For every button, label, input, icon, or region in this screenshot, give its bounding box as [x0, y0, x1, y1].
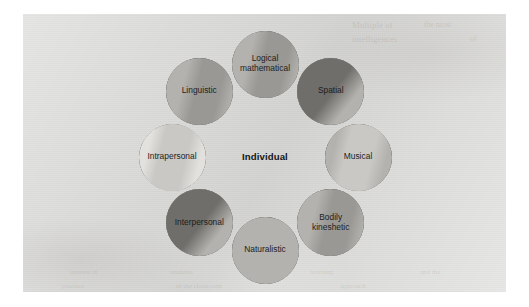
center-label: Individual — [210, 151, 320, 162]
intelligence-circle-label: Musical — [342, 152, 375, 162]
multiple-intelligences-venn-diagram: LogicalmathematicalSpatialMusicalBodilyk… — [0, 0, 529, 307]
intelligence-circle-label: Naturalistic — [242, 245, 288, 255]
intelligence-circle-label: Logicalmathematical — [238, 54, 292, 74]
intelligence-circle-linguistic[interactable]: Linguistic — [166, 58, 233, 125]
intelligence-circle-naturalistic[interactable]: Naturalistic — [232, 217, 299, 284]
intelligence-circle-label: Spatial — [316, 86, 346, 96]
intelligence-circle-logical-mathematical[interactable]: Logicalmathematical — [232, 31, 299, 98]
intelligence-circle-label: Interpersonal — [173, 218, 226, 228]
intelligence-circle-musical[interactable]: Musical — [325, 124, 392, 191]
intelligence-circle-spatial[interactable]: Spatial — [297, 58, 364, 125]
intelligence-circle-label: Linguistic — [180, 86, 219, 96]
intelligence-circle-label: Bodilykineshetic — [310, 213, 351, 233]
figure-page: Multiple ofintelligencesthe mostofintere… — [0, 0, 529, 307]
intelligence-circle-interpersonal[interactable]: Interpersonal — [166, 189, 233, 256]
intelligence-circle-bodily-kineshetic[interactable]: Bodilykineshetic — [297, 189, 364, 256]
intelligence-circle-intrapersonal[interactable]: Intrapersonal — [139, 124, 206, 191]
intelligence-circle-label: Intrapersonal — [145, 152, 198, 162]
